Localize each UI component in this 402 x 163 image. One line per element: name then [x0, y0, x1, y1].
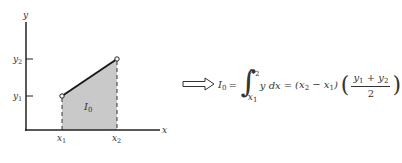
y1-tick-label: y1	[12, 91, 22, 103]
equals-sign-2: =	[284, 80, 292, 91]
implies-arrow-icon	[183, 78, 214, 90]
point-2-marker	[115, 57, 119, 61]
paren-open: (	[341, 74, 350, 96]
x1-tick-label: x1	[57, 133, 66, 145]
y-axis-label: y	[22, 10, 29, 20]
fraction-numerator: y1 + y2	[351, 72, 390, 87]
equals-sign: =	[228, 80, 236, 91]
integrand: y dx	[260, 80, 281, 91]
integral-sign: ∫ x2 x1	[241, 68, 255, 102]
area-region	[62, 59, 117, 130]
y2-tick-label: y2	[12, 54, 22, 66]
paren-close: )	[392, 74, 401, 96]
area-formula: I0 = ∫ x2 x1 y dx = (x2 − x1) ( y1 + y2 …	[218, 66, 402, 104]
fraction-denominator: 2	[368, 87, 374, 99]
point-1-marker	[60, 94, 64, 98]
width-term: (x2 − x1)	[295, 79, 338, 92]
x-axis-label: x	[162, 125, 167, 135]
formula-lhs: I0	[218, 79, 226, 92]
average-height-fraction: y1 + y2 2	[351, 72, 390, 99]
integral-upper-limit: x2	[250, 66, 260, 78]
x2-tick-label: x2	[112, 133, 121, 145]
integral-lower-limit: x1	[248, 92, 258, 104]
